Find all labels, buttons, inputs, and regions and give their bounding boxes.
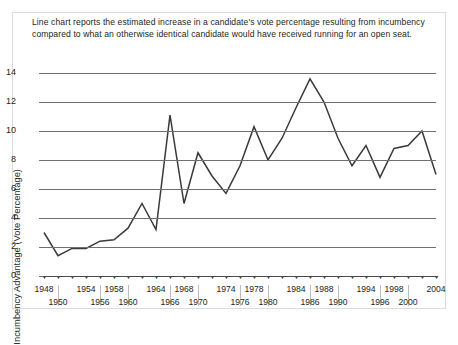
x-tick-2000 [407,276,411,279]
x-tick-1960 [127,276,131,279]
x-tick-1988 [323,276,327,279]
x-tick-1986 [309,276,313,279]
x-tick-1974 [225,276,229,279]
x-axis-label-1994: 1994 [356,284,375,294]
x-axis-label-1976: 1976 [230,297,249,307]
y-tick-label-12: 12 [0,96,16,106]
y-tick-label-8: 8 [0,154,16,164]
y-tick-label-4: 4 [0,212,16,222]
x-axis-label-1948: 1948 [34,284,53,294]
x-tick-1972 [211,276,215,279]
x-axis-label-1996: 1996 [370,297,389,307]
x-tick-1976 [239,276,243,279]
x-tick-1950 [57,276,61,279]
y-tick-label-10: 10 [0,125,16,135]
x-axis-label-2000: 2000 [398,297,417,307]
x-tick-1980 [267,276,271,279]
x-tick-1970 [197,276,201,279]
y-tick-label-14: 14 [0,67,16,77]
x-tick-1966 [169,276,173,279]
x-axis-label-1970: 1970 [188,297,207,307]
x-axis-label-1960: 1960 [118,297,137,307]
x-tick-1962 [141,276,145,279]
x-label-separators [44,0,436,321]
x-axis-label-1954: 1954 [76,284,95,294]
x-axis-label-2004: 2004 [426,284,445,294]
x-axis-labels-row-lower: 1950195619601966197019761980198619901996… [44,297,436,309]
x-axis-label-1984: 1984 [286,284,305,294]
x-axis-label-1966: 1966 [160,297,179,307]
x-tick-1952 [71,276,75,279]
x-axis-label-1988: 1988 [314,284,333,294]
x-axis-label-1964: 1964 [146,284,165,294]
x-tick-1958 [113,276,117,279]
x-tick-1998 [393,276,397,279]
x-tick-1964 [155,276,159,279]
x-tick-1992 [351,276,355,279]
x-tick-1990 [337,276,341,279]
x-axis-label-1980: 1980 [258,297,277,307]
x-tick-1954 [85,276,89,279]
x-tick-1984 [295,276,299,279]
y-tick-label-6: 6 [0,183,16,193]
x-tick-1996 [379,276,383,279]
x-tick-2004 [435,276,439,279]
x-tick-1994 [365,276,369,279]
x-tick-1948 [43,276,47,279]
x-axis-label-1950: 1950 [48,297,67,307]
x-tick-1968 [183,276,187,279]
x-axis-label-1998: 1998 [384,284,403,294]
x-tick-1978 [253,276,257,279]
x-axis-label-1990: 1990 [328,297,347,307]
y-tick-label-0: 0 [0,270,16,280]
y-axis-title-wrapper: Incumbency Advantage (Vote Percentage) [22,73,23,276]
x-tick-1982 [281,276,285,279]
x-axis-label-1958: 1958 [104,284,123,294]
x-axis-label-1956: 1956 [90,297,109,307]
x-axis-label-1978: 1978 [244,284,263,294]
x-tick-1956 [99,276,103,279]
x-axis-ticks [44,277,436,283]
x-axis-label-1968: 1968 [174,284,193,294]
x-axis-label-1986: 1986 [300,297,319,307]
y-axis-title: Incumbency Advantage (Vote Percentage) [11,169,22,345]
x-axis-labels-row-upper: 1948195419581964196819741978198419881994… [44,284,436,296]
x-axis-label-1974: 1974 [216,284,235,294]
y-tick-label-2: 2 [0,241,16,251]
x-tick-2002 [421,276,425,279]
